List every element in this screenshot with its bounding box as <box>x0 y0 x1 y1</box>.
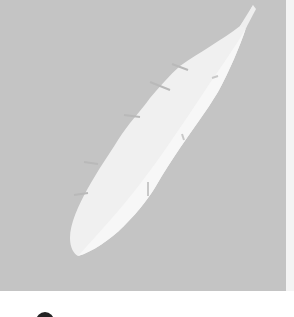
feather-photo <box>0 0 286 291</box>
page-edge <box>286 0 294 291</box>
image-frame <box>0 0 294 317</box>
feather-icon <box>0 0 286 291</box>
